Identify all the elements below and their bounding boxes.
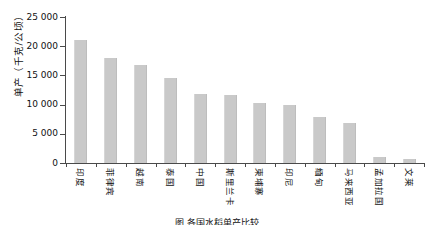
x-axis-tick [126,163,127,167]
bar [253,103,266,163]
y-axis-tick [60,75,65,76]
x-axis-category-label: 斯里兰卡 [225,168,235,206]
x-axis-category-label: 印度 [75,168,85,187]
x-axis-category-label: 中国 [195,168,205,187]
x-axis-category-label: 柬埔寨 [254,168,264,197]
y-axis-tick [60,163,65,164]
x-axis-category-label: 孟加拉国 [374,168,384,206]
bar [134,65,147,163]
bar [373,157,386,163]
x-axis-tick [275,163,276,167]
x-axis-category-label: 泰国 [165,168,175,187]
y-axis-tick-label: 0 [2,159,58,168]
x-axis-category-label: 菲律宾 [105,168,115,197]
bar [74,40,87,163]
bar [313,117,326,163]
x-axis-tick [305,163,306,167]
y-axis-tick-label: 5 000 [2,129,58,138]
x-axis-tick [364,163,365,167]
x-axis-tick [156,163,157,167]
bar [343,123,356,163]
x-axis-tick [66,163,67,167]
x-axis-category-label: 文莱 [404,168,414,187]
y-axis-tick [60,17,65,18]
y-axis-tick-label: 20 000 [2,42,58,51]
y-axis-tick [60,46,65,47]
bar [283,105,296,163]
bar [194,94,207,163]
x-axis-tick [215,163,216,167]
plot-area [66,17,424,163]
bar [164,78,177,163]
x-axis-category-label: 越南 [135,168,145,187]
x-axis-tick [335,163,336,167]
y-axis-tick [60,105,65,106]
x-axis-category-label: 马来西亚 [344,168,354,206]
y-axis-tick-label: 10 000 [2,100,58,109]
x-axis-tick [185,163,186,167]
bar [403,159,416,163]
x-axis-category-label: 缅甸 [314,168,324,187]
bar [224,95,237,163]
bar [104,58,117,163]
y-axis-tick-label: 15 000 [2,71,58,80]
figure-caption: 图 各国水稻单产比较 [0,216,434,225]
x-axis-tick [96,163,97,167]
x-axis-category-label: 印尼 [284,168,294,187]
bar-chart-figure: 单产（千克/公顷） 05 00010 00015 00020 00025 000… [0,0,434,225]
x-axis-tick [424,163,425,167]
x-axis-tick [394,163,395,167]
y-axis-tick [60,134,65,135]
y-axis-tick-label: 25 000 [2,13,58,22]
x-axis-tick [245,163,246,167]
